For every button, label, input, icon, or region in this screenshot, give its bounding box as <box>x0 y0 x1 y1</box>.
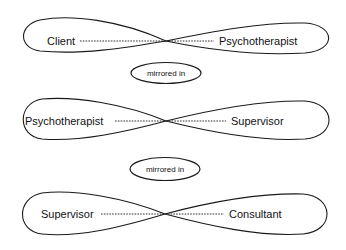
node-label-left: Supervisor <box>41 208 94 220</box>
relationship-loop-supervisor-consultant: Supervisor Consultant <box>23 192 328 235</box>
node-label-right: Consultant <box>229 208 282 220</box>
node-label-right: Supervisor <box>231 115 284 127</box>
mirrored-in-oval-2: mirrored in <box>130 158 200 181</box>
oval-label: mirrored in <box>147 69 185 78</box>
oval-label: mirrored in <box>146 165 184 174</box>
relationship-loop-client-psychotherapist: Client Psychotherapist <box>24 18 329 54</box>
mirrored-in-oval-1: mirrored in <box>131 63 201 84</box>
mirroring-diagram: Client Psychotherapist mirrored in Psych… <box>0 0 346 250</box>
relationship-loop-psychotherapist-supervisor: Psychotherapist Supervisor <box>23 98 329 139</box>
node-label-left: Client <box>47 35 75 47</box>
node-label-right: Psychotherapist <box>219 35 297 47</box>
node-label-left: Psychotherapist <box>25 115 103 127</box>
